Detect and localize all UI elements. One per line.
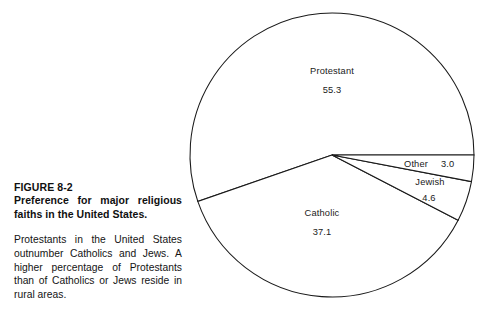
- slice-label-other-name: Other: [404, 159, 428, 169]
- slice-label-jewish-value: 4.6: [422, 193, 435, 203]
- pie-chart-svg: [0, 0, 489, 315]
- pie-chart: Protestant 55.3 Catholic 37.1 Other 3.0 …: [0, 0, 489, 315]
- slice-label-catholic-name: Catholic: [305, 208, 340, 218]
- slice-label-catholic-value: 37.1: [313, 227, 332, 237]
- slice-label-other-value: 3.0: [441, 159, 454, 169]
- slice-label-protestant-value: 55.3: [323, 85, 342, 95]
- slice-label-jewish-name: Jewish: [415, 177, 444, 187]
- figure-page: FIGURE 8-2 Preference for major religiou…: [0, 0, 489, 315]
- slice-label-protestant-name: Protestant: [310, 66, 354, 76]
- pie-slices: [190, 13, 474, 297]
